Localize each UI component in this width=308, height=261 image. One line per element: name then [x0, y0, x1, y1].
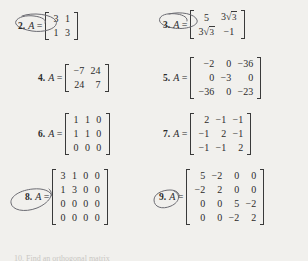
equals-sign: =	[37, 20, 43, 31]
matrix-row: −1 −1 2	[195, 141, 246, 155]
problem-8: 8. A = 3 1 0 0 1 3 0 0 0 0	[25, 169, 108, 225]
matrix-cell: 0	[57, 211, 68, 225]
bracket-right	[74, 12, 78, 40]
bracket-left	[190, 57, 194, 99]
problem-5: 5. A = −2 0 −36 0 −3 0 −36 0 −23	[163, 57, 261, 99]
equals-sign: =	[182, 72, 188, 83]
matrix-grid: 3 1 1 3	[50, 12, 73, 40]
matrix-row: −2 0 −36	[195, 57, 256, 71]
problem-number: 6.	[38, 129, 45, 139]
matrix-row: 5 −2 0 0	[191, 169, 259, 183]
equals-sign: =	[44, 191, 50, 202]
matrix-row: −36 0 −23	[195, 85, 256, 99]
matrix-cell: −1	[195, 127, 212, 141]
equals-sign: =	[182, 128, 188, 139]
bracket-left	[65, 113, 69, 155]
bracket-right	[104, 169, 108, 225]
matrix-cell: −23	[234, 85, 256, 99]
matrix-row: −2 2 0 0	[191, 183, 259, 197]
matrix-4: −7 24 24 7	[65, 64, 108, 92]
matrix-cell: 3	[57, 169, 68, 183]
matrix-variable: A	[173, 19, 179, 30]
matrix-row: 0 0 0 0	[57, 211, 103, 225]
matrix-2: 3 1 1 3	[45, 12, 78, 40]
matrix-grid: −2 0 −36 0 −3 0 −36 0 −23	[195, 57, 256, 99]
matrix-grid: 3 1 0 0 1 3 0 0 0 0 0 0 0	[57, 169, 103, 225]
matrix-cell: 1	[82, 127, 93, 141]
matrix-variable: A	[28, 20, 34, 31]
matrix-cell: −36	[195, 85, 217, 99]
matrix-row: 24 7	[70, 78, 103, 92]
matrix-grid: 1 1 0 1 1 0 0 0 0	[70, 113, 104, 155]
matrix-row: 3√3 −1	[195, 25, 240, 40]
matrix-row: 2 −1 −1	[195, 113, 246, 127]
matrix-cell: −3	[217, 71, 234, 85]
matrix-grid: 2 −1 −1 −1 2 −1 −1 −1 2	[195, 113, 246, 155]
matrix-cell-radical: 3√3	[218, 10, 240, 25]
radicand: 3	[209, 26, 215, 39]
matrix-cell: 1	[57, 183, 68, 197]
matrix-cell: 24	[87, 64, 103, 78]
problem-6: 6. A = 1 1 0 1 1 0 0 0 0	[38, 113, 110, 155]
matrix-cell: −1	[195, 141, 212, 155]
problem-number: 9.	[159, 192, 166, 202]
matrix-cell: 0	[92, 211, 103, 225]
matrix-8: 3 1 0 0 1 3 0 0 0 0 0 0 0	[52, 169, 108, 225]
matrix-cell: −2	[195, 57, 217, 71]
matrix-cell: 1	[50, 26, 61, 40]
equals-sign: =	[178, 191, 184, 202]
matrix-cell: 5	[225, 197, 242, 211]
bracket-left	[52, 169, 56, 225]
matrix-cell: −1	[229, 127, 246, 141]
matrix-cell: 0	[80, 211, 91, 225]
matrix-row: 5 3√3	[195, 10, 240, 25]
radicand: 3	[231, 11, 237, 24]
bracket-right	[106, 113, 110, 155]
bracket-right	[260, 169, 264, 225]
matrix-cell: 0	[93, 127, 104, 141]
problem-number: 3.	[163, 20, 170, 30]
matrix-cell: 0	[92, 169, 103, 183]
matrix-row: 0 0 0 0	[57, 197, 103, 211]
matrix-9: 5 −2 0 0 −2 2 0 0 0 0 5 −2	[186, 169, 264, 225]
matrix-row: 1 1 0	[70, 127, 104, 141]
matrix-cell: −1	[229, 113, 246, 127]
equals-sign: =	[57, 128, 63, 139]
matrix-cell: 2	[195, 113, 212, 127]
matrix-cell: 0	[217, 85, 234, 99]
matrix-row: −1 2 −1	[195, 127, 246, 141]
matrix-variable: A	[48, 72, 54, 83]
matrix-cell: 0	[80, 197, 91, 211]
matrix-row: 1 1 0	[70, 113, 104, 127]
matrix-grid: −7 24 24 7	[70, 64, 103, 92]
matrix-cell: 0	[208, 211, 225, 225]
radical-expression: 3√3	[199, 25, 215, 39]
matrix-cell: 0	[225, 183, 242, 197]
matrix-cell: 0	[92, 183, 103, 197]
problem-number: 8.	[25, 192, 32, 202]
bracket-left	[45, 12, 49, 40]
matrix-grid: 5 −2 0 0 −2 2 0 0 0 0 5 −2	[191, 169, 259, 225]
matrix-cell: 2	[212, 127, 229, 141]
matrix-cell: 0	[195, 71, 217, 85]
problem-3: 3. A = 5 3√3 3√3 −1	[163, 10, 245, 39]
matrix-cell: 1	[70, 127, 81, 141]
matrix-cell: −7	[70, 64, 87, 78]
matrix-7: 2 −1 −1 −1 2 −1 −1 −1 2	[190, 113, 251, 155]
matrix-cell: 0	[92, 197, 103, 211]
problem-number: 4.	[38, 73, 45, 83]
matrix-cell: 0	[69, 211, 80, 225]
matrix-cell: 0	[82, 141, 93, 155]
matrix-cell: 0	[191, 197, 208, 211]
matrix-cell: −1	[212, 113, 229, 127]
matrix-cell: 0	[217, 57, 234, 71]
matrix-row: 1 3 0 0	[57, 183, 103, 197]
matrix-cell: 0	[234, 71, 256, 85]
bracket-left	[65, 64, 69, 92]
matrix-cell: 1	[62, 12, 73, 26]
matrix-6: 1 1 0 1 1 0 0 0 0	[65, 113, 109, 155]
matrix-grid: 5 3√3 3√3 −1	[195, 10, 240, 39]
bracket-right	[257, 57, 261, 99]
matrix-cell: −2	[242, 197, 259, 211]
matrix-cell: 3	[50, 12, 61, 26]
